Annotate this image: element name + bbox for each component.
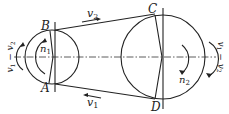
v2-label: v2	[87, 7, 98, 21]
point-label-b: B	[40, 19, 50, 33]
slip-right-arrowhead-icon	[206, 73, 212, 78]
n1-label: n1	[40, 43, 51, 56]
slip-label-left: v1 − v2	[5, 41, 16, 72]
point-label-d: D	[150, 100, 161, 114]
n2-rotation-arc	[182, 45, 189, 73]
belt-drive-diagram: B A C D v2 v1 n1 n2 v1 − v2 v1 − v2	[0, 0, 229, 114]
point-label-c: C	[148, 2, 157, 16]
v1-label: v1	[87, 96, 98, 110]
n2-label: n2	[179, 74, 190, 87]
point-label-a: A	[40, 81, 50, 95]
slip-label-right: v1 − v2	[216, 41, 227, 72]
slip-left-arrowhead-icon	[20, 42, 25, 47]
